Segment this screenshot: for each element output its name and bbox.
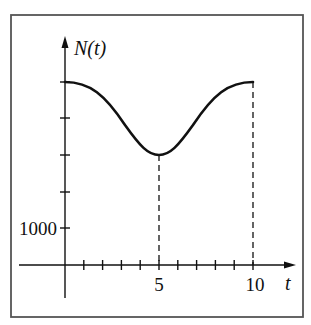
y-tick-label-1000: 1000 bbox=[19, 218, 57, 239]
chart-figure: N(t) t 1000 5 10 bbox=[0, 0, 311, 325]
y-axis-arrow-icon bbox=[62, 36, 69, 48]
curve-n-of-t bbox=[65, 82, 253, 155]
y-axis-label: N(t) bbox=[73, 37, 107, 60]
x-axis-label: t bbox=[285, 272, 291, 294]
x-axis-arrow-icon bbox=[284, 262, 296, 269]
x-tick-label-10: 10 bbox=[246, 274, 265, 295]
chart-frame bbox=[11, 15, 303, 317]
x-tick-label-5: 5 bbox=[154, 274, 164, 295]
